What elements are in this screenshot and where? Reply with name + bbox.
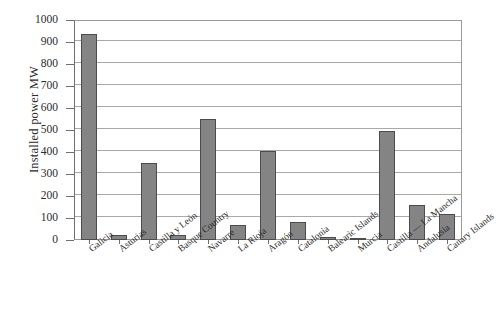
y-axis-tick-mark: [66, 196, 74, 197]
y-axis-tick-mark: [66, 20, 74, 21]
bar-slot: [313, 20, 343, 240]
y-axis-tick-mark: [66, 42, 74, 43]
bar-slot: [193, 20, 223, 240]
y-axis-tick-label: 600: [14, 102, 58, 114]
y-axis-tick-mark: [66, 152, 74, 153]
y-axis-tick-label: 100: [14, 212, 58, 224]
y-axis-tick-mark: [66, 130, 74, 131]
y-axis-tick-mark: [66, 108, 74, 109]
bar-slot: [74, 20, 104, 240]
y-axis-tick-mark: [66, 240, 74, 241]
y-axis-tick-mark: [66, 64, 74, 65]
y-axis-tick-label: 800: [14, 58, 58, 70]
bar-slot: [402, 20, 432, 240]
bar-series: [74, 20, 462, 240]
bar-slot: [253, 20, 283, 240]
bar-slot: [104, 20, 134, 240]
bar-slot: [164, 20, 194, 240]
y-axis-tick-mark: [66, 218, 74, 219]
y-axis-tick-label: 700: [14, 80, 58, 92]
bar-slot: [343, 20, 373, 240]
y-axis-tick-label: 400: [14, 146, 58, 158]
y-axis-tick-mark: [66, 86, 74, 87]
bar: [81, 34, 97, 240]
bar-slot: [372, 20, 402, 240]
y-axis-tick-label: 300: [14, 168, 58, 180]
y-axis-tick-mark: [66, 174, 74, 175]
bar-slot: [223, 20, 253, 240]
bar: [379, 131, 395, 240]
bar-slot: [134, 20, 164, 240]
y-axis-tick-label: 1000: [14, 14, 58, 26]
y-axis-tick-label: 900: [14, 36, 58, 48]
y-axis-tick-label: 500: [14, 124, 58, 136]
y-axis-tick-label: 0: [14, 234, 58, 246]
bar-slot: [283, 20, 313, 240]
y-axis-tick-label: 200: [14, 190, 58, 202]
